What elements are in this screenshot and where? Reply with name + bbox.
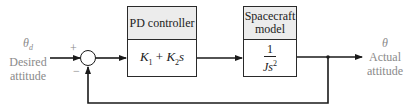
input-label-line1: Desired [6,55,50,69]
output-label: θ Actual attitude [363,36,407,78]
pd-controller-title: PD controller [128,7,196,40]
signal-lines [0,0,407,111]
spacecraft-model-block: Spacecraft model 1 Js2 [243,6,297,77]
tf-numerator: 1 [264,43,276,57]
input-label: θd Desired attitude [6,36,50,83]
input-symbol: θd [6,36,50,55]
plant-transfer-function: 1 Js2 [244,40,296,76]
pd-transfer-function: K1 + K2s [128,40,196,76]
plus-sign: + [70,42,77,54]
output-label-line2: attitude [363,64,407,78]
tf-denominator: Js2 [263,57,277,74]
output-symbol: θ [363,36,407,50]
minus-sign: − [73,65,80,77]
spacecraft-model-title: Spacecraft model [244,7,296,40]
output-label-line1: Actual [363,50,407,64]
control-block-diagram: θd Desired attitude + − PD controller K1… [0,0,407,111]
input-label-line2: attitude [6,69,50,83]
summing-junction [81,51,96,66]
pd-controller-block: PD controller K1 + K2s [127,6,197,77]
